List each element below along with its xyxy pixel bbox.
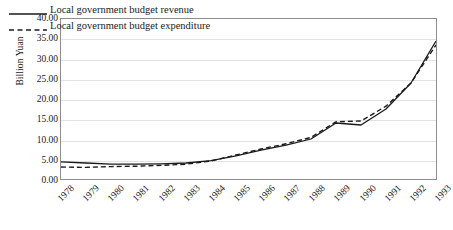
x-axis-tick-labels: 1978197919801981198219831984198519861987… (0, 0, 450, 230)
chart-figure: Billion Yuan 0.005.0010.0015.0020.0025.0… (0, 0, 450, 230)
